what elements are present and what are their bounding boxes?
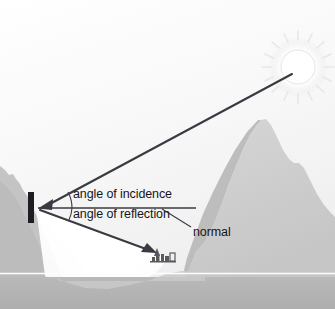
water (0, 277, 335, 309)
label-normal: normal (193, 226, 231, 239)
mirror-bar (28, 192, 34, 223)
diagram-canvas (0, 0, 335, 309)
label-angle-of-reflection: angle of reflection (73, 208, 170, 221)
sun-disc (281, 50, 315, 84)
sun-icon (262, 31, 334, 103)
label-angle-of-incidence: angle of incidence (73, 188, 172, 201)
reflection-diagram: angle of incidence angle of reflection n… (0, 0, 335, 309)
